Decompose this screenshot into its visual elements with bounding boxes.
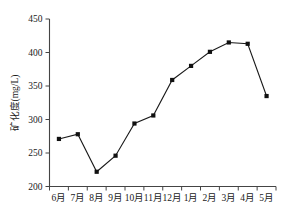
- x-tick-label: 3月: [221, 193, 236, 203]
- data-point-marker: [95, 170, 99, 174]
- data-point-marker: [76, 132, 80, 136]
- data-point-marker: [208, 50, 212, 54]
- data-point-marker: [189, 64, 193, 68]
- chart-canvas: 200250300350400450 6月7月8月9月10月11月12月1月2月…: [0, 0, 288, 220]
- y-tick-label: 250: [28, 148, 43, 158]
- y-tick-label: 450: [28, 14, 43, 24]
- data-point-marker: [170, 78, 174, 82]
- data-point-marker: [151, 113, 155, 117]
- data-point-marker: [264, 94, 268, 98]
- x-tick-label: 10月: [125, 193, 145, 203]
- line-chart: 200250300350400450 6月7月8月9月10月11月12月1月2月…: [0, 0, 288, 220]
- x-tick-label: 11月: [144, 193, 163, 203]
- x-tick-label: 4月: [240, 193, 255, 203]
- y-tick-label: 200: [28, 182, 43, 192]
- x-tick-label: 1月: [184, 193, 199, 203]
- y-axis-title: 矿化度(mg/L): [9, 75, 21, 132]
- x-tick-label: 9月: [108, 193, 123, 203]
- data-point-marker: [57, 137, 61, 141]
- x-tick-label: 2月: [203, 193, 218, 203]
- x-tick-label: 8月: [89, 193, 104, 203]
- x-tick-label: 7月: [70, 193, 85, 203]
- y-tick-label: 350: [28, 81, 43, 91]
- data-point-marker: [227, 40, 231, 44]
- data-point-marker: [132, 121, 136, 125]
- x-tick-label: 5月: [259, 193, 274, 203]
- data-point-marker: [246, 42, 250, 46]
- y-tick-label: 400: [28, 48, 43, 58]
- y-tick-label: 300: [28, 115, 43, 125]
- x-tick-label: 12月: [162, 193, 182, 203]
- x-tick-label: 6月: [52, 193, 67, 203]
- data-point-marker: [113, 154, 117, 158]
